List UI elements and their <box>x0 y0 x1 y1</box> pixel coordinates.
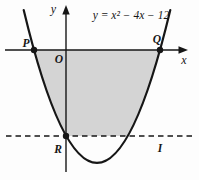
parabola-graph-svg: y x y = x² − 4x − 12 P O Q R I <box>0 0 199 180</box>
x-axis-label: x <box>180 53 187 67</box>
parabola-figure: y x y = x² − 4x − 12 P O Q R I <box>0 0 199 180</box>
label-q: Q <box>153 33 161 45</box>
point-q <box>157 47 163 53</box>
label-r: R <box>53 143 62 155</box>
label-origin: O <box>55 53 63 65</box>
label-p: P <box>22 37 30 49</box>
y-axis-label: y <box>50 2 57 16</box>
label-i: I <box>157 142 163 154</box>
equation-label: y = x² − 4x − 12 <box>92 9 170 22</box>
point-r <box>63 133 69 139</box>
point-p <box>31 47 37 53</box>
